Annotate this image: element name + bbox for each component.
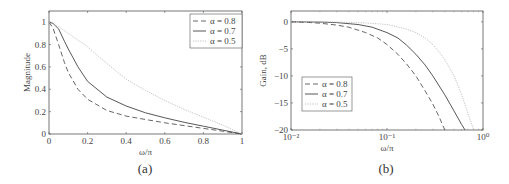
chart-b-gain: 10⁻²10⁻¹10⁰−20−15−10−50ω/πGain, dBα = 0.… [258,11,490,176]
legend-label: α = 0.5 [210,36,236,46]
y-tick-label: 0.8 [35,40,47,50]
y-tick-label: 0.2 [35,107,46,117]
x-tick-label: 0 [47,136,52,146]
y-tick-label: 0 [42,129,47,139]
y-tick-label: 1 [42,17,47,27]
series-line-dotted [291,22,474,130]
legend-label: α = 0.5 [322,99,348,109]
x-tick-label: 0.2 [82,136,93,146]
x-tick-label: 0.6 [159,136,171,146]
x-tick-label: 10⁻¹ [379,132,396,142]
y-tick-label: −20 [274,125,289,135]
y-tick-label: 0.6 [35,62,47,72]
x-axis-label: ω/π [139,147,152,157]
y-tick-label: −5 [278,44,288,54]
legend-label: α = 0.8 [322,79,348,89]
x-axis-label: ω/π [381,143,394,153]
legend: α = 0.8α = 0.7α = 0.5 [302,77,352,111]
legend: α = 0.8α = 0.7α = 0.5 [190,14,242,48]
y-axis-label: Magnitude [22,53,32,92]
y-axis-label: Gain, dB [258,54,268,87]
series-group [291,22,474,130]
x-axis: 10⁻²10⁻¹10⁰ [283,11,490,142]
x-tick-label: 1 [240,136,245,146]
figure-caption: (a) [138,161,152,176]
chart-a-magnitude: 00.20.40.60.8100.20.40.60.81ω/πMagnitude… [22,11,244,176]
y-tick-label: 0.4 [35,84,47,94]
x-tick-label: 0.4 [121,136,133,146]
series-line-dashed [291,22,445,130]
y-tick-label: 0 [284,17,289,27]
legend-label: α = 0.8 [210,16,236,26]
y-tick-label: −15 [274,98,289,108]
figure: 00.20.40.60.8100.20.40.60.81ω/πMagnitude… [0,0,509,184]
x-tick-label: 0.8 [198,136,210,146]
legend-label: α = 0.7 [322,89,348,99]
y-axis: −20−15−10−50 [274,17,483,135]
legend-label: α = 0.7 [210,26,236,36]
figure-caption: (b) [378,161,393,176]
y-tick-label: −10 [274,71,289,81]
x-tick-label: 10⁰ [477,132,490,142]
